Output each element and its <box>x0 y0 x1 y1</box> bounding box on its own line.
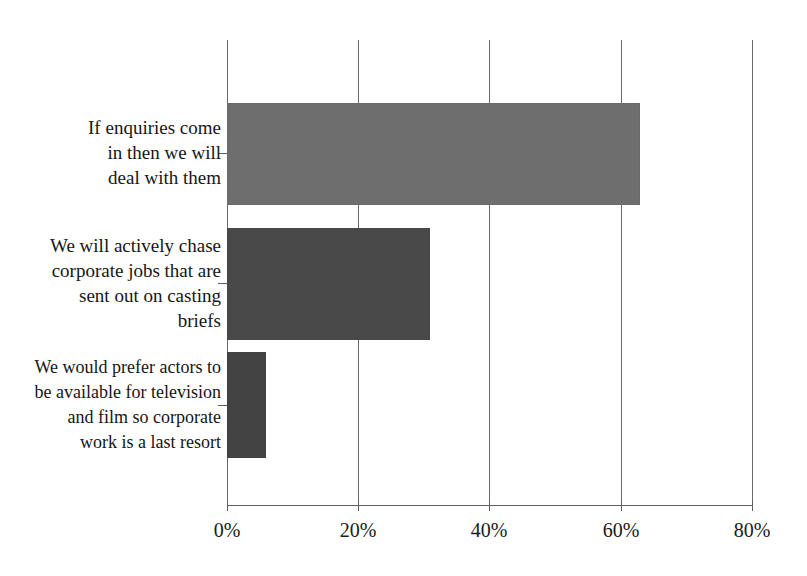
category-label-enquiries-reactive: If enquiries come in then we will deal w… <box>0 115 221 190</box>
bar-fill <box>227 103 640 205</box>
category-label-line: sent out on casting <box>0 283 221 308</box>
bar-fill <box>227 228 430 340</box>
x-tick-mark-0 <box>227 500 228 511</box>
category-label-actively-chase-casting-briefs: We will actively chase corporate jobs th… <box>0 233 221 333</box>
bar-prefer-tv-film-corporate-last-resort <box>227 352 266 458</box>
bar-fill <box>227 352 266 458</box>
category-label-line: We would prefer actors to <box>0 355 221 380</box>
category-label-line: be available for television <box>0 380 221 405</box>
x-tick-mark-20 <box>358 500 359 511</box>
category-label-line: If enquiries come <box>0 115 221 140</box>
category-label-line: work is a last resort <box>0 430 221 455</box>
bar-actively-chase-casting-briefs <box>227 228 430 340</box>
category-label-line: and film so corporate <box>0 405 221 430</box>
plot-area <box>227 40 752 505</box>
category-label-line: briefs <box>0 308 221 333</box>
x-tick-label-40: 40% <box>471 518 508 542</box>
gridline-80 <box>752 40 753 505</box>
x-tick-mark-60 <box>621 500 622 511</box>
category-label-line: corporate jobs that are <box>0 258 221 283</box>
x-tick-label-20: 20% <box>340 518 377 542</box>
x-tick-label-80: 80% <box>734 518 771 542</box>
category-label-line: in then we will <box>0 140 221 165</box>
clipped-title-text <box>0 0 807 2</box>
x-axis-line <box>227 505 753 506</box>
category-label-line: deal with them <box>0 165 221 190</box>
bar-enquiries-reactive <box>227 103 640 205</box>
category-label-line: We will actively chase <box>0 233 221 258</box>
x-tick-mark-40 <box>489 500 490 511</box>
category-label-prefer-tv-film-corporate-last-resort: We would prefer actors to be available f… <box>0 355 221 455</box>
x-tick-mark-80 <box>752 500 753 511</box>
x-tick-label-0: 0% <box>214 518 241 542</box>
bar-chart: 0% 20% 40% 60% 80% If enquiries come in … <box>0 0 807 576</box>
x-tick-label-60: 60% <box>603 518 640 542</box>
